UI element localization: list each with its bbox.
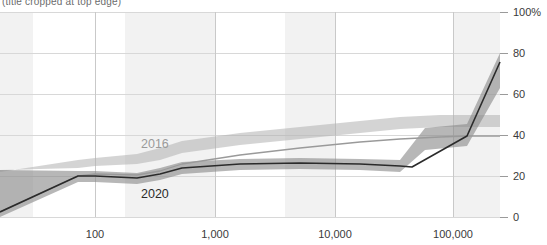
x-tick-label-1000: 1,000: [201, 228, 229, 240]
y-tick-label-60: 60: [513, 88, 525, 100]
x-tick-label-100000: 100,000: [433, 228, 473, 240]
chart-plot: 100% 80 60 40 20 0 100 1,000 10,000 100,…: [0, 0, 547, 245]
horizontal-gridlines: [0, 13, 500, 218]
y-tick-label-20: 20: [513, 170, 525, 182]
y-tick-label-80: 80: [513, 47, 525, 59]
series-annotation-2020: 2020: [141, 187, 169, 201]
x-tick-label-100: 100: [86, 228, 104, 240]
y-axis-ticks: [500, 13, 508, 218]
background-bands: [0, 12, 500, 217]
y-tick-label-0: 0: [513, 211, 519, 223]
chart-container: (title cropped at top edge): [0, 0, 547, 245]
x-tick-label-10000: 10,000: [318, 228, 352, 240]
series-annotation-2016: 2016: [141, 137, 169, 151]
y-tick-label-100: 100%: [513, 6, 541, 18]
y-tick-label-40: 40: [513, 129, 525, 141]
